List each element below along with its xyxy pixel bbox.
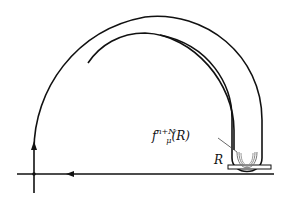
diagram-canvas [0,0,285,205]
fixed-point [32,172,36,176]
rectangle-label: R [214,153,223,167]
image-curve-3 [241,153,253,165]
left-arrow-icon [66,171,74,177]
iterate-label: fn+Nμ(R) [152,127,190,145]
outer-unstable-manifold [34,16,262,171]
iterate-argument: (R) [172,129,190,143]
